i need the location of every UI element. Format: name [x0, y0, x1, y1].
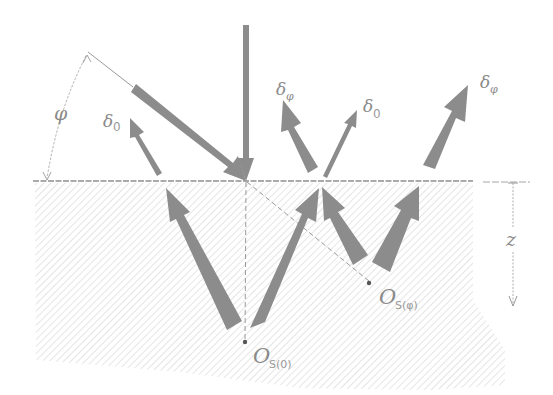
source-phi-symbol: O — [379, 285, 396, 309]
delta-0-left-arrow — [130, 118, 162, 176]
delta-0-mid-subscript: 0 — [373, 107, 381, 121]
source-phi-subscript: S(φ) — [395, 299, 418, 312]
delta-0-left-label: δ 0 — [103, 111, 121, 134]
depth-label: z — [505, 228, 517, 250]
delta-phi-right-symbol: δ — [480, 72, 490, 92]
delta-phi-right-label: δ φ — [480, 72, 498, 96]
electron-emission-diagram: z φ — [0, 0, 553, 395]
delta-0-mid-arrow — [323, 110, 357, 178]
delta-0-left-symbol: δ — [103, 111, 113, 131]
oblique-beam-extension — [88, 52, 133, 87]
delta-phi-mid-label: δ φ — [276, 79, 294, 103]
delta-0-mid-symbol: δ — [363, 96, 373, 116]
source-point-0 — [243, 340, 247, 344]
delta-phi-right-subscript: φ — [490, 83, 498, 96]
source-0-symbol: O — [253, 344, 270, 368]
angle-label: φ — [54, 102, 68, 124]
delta-phi-mid-symbol: δ — [276, 79, 286, 99]
oblique-incident-beam — [131, 84, 246, 181]
delta-0-left-subscript: 0 — [113, 120, 121, 134]
depth-marker: z — [483, 182, 530, 306]
source-point-phi — [367, 281, 371, 285]
normal-incident-beam — [238, 25, 254, 181]
delta-phi-mid-arrow — [281, 100, 318, 173]
angle-phi-construction: φ — [43, 52, 133, 180]
delta-phi-right-arrow — [423, 85, 468, 169]
delta-phi-mid-subscript: φ — [286, 90, 294, 103]
delta-0-mid-label: δ 0 — [363, 96, 381, 121]
source-0-subscript: S(0) — [269, 358, 292, 371]
